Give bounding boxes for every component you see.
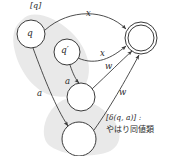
label-edge-x-top: x — [86, 9, 91, 18]
label-state-q: q — [27, 29, 33, 38]
label-edge-a-middle: a — [65, 77, 70, 86]
state-bottom[interactable] — [62, 122, 96, 156]
caption-japanese-note: やはり同値類 — [106, 125, 154, 135]
label-state-q-prime: q′ — [61, 46, 69, 55]
label-class-q: [q] — [30, 2, 41, 10]
label-edge-x-middle: x — [100, 49, 105, 58]
state-middle[interactable] — [67, 83, 95, 111]
figure-canvas: [q] q q′ x x a a w w [δ(q, a)] : やはり同値類 — [0, 0, 179, 156]
label-edge-a-left: a — [37, 89, 42, 98]
label-edge-w-lower: w — [119, 88, 126, 97]
caption-delta-class: [δ(q, a)] : — [106, 113, 141, 122]
label-edge-w-upper: w — [105, 62, 112, 71]
state-accepting-outer[interactable] — [125, 22, 157, 54]
